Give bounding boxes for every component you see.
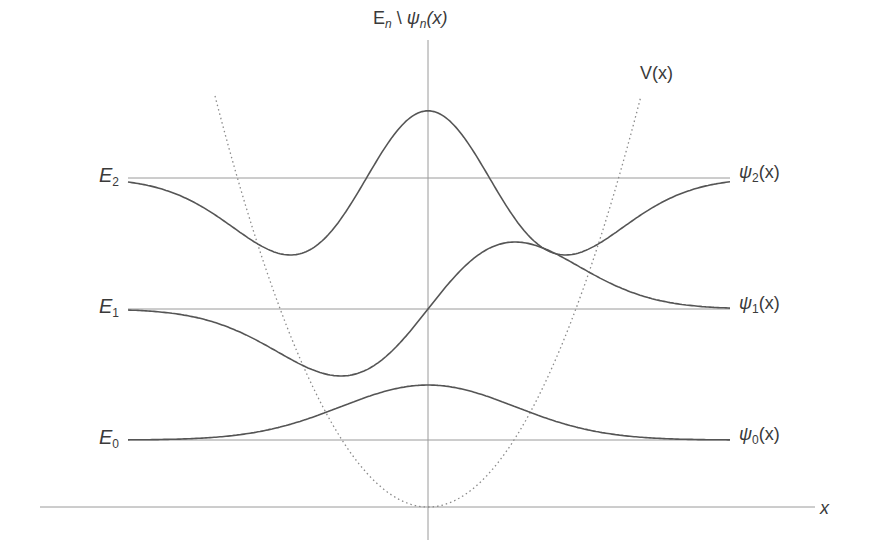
- wavefunctions: [128, 111, 730, 440]
- x-axis-label: x: [820, 499, 829, 517]
- wavefunction-curve-0: [128, 385, 730, 440]
- psi-label-0: ψ0(x): [739, 425, 780, 446]
- energy-label-e0: E0: [99, 427, 119, 450]
- plot-area: [0, 0, 869, 552]
- potential-label: V(x): [640, 64, 673, 82]
- wavefunction-curve-2: [128, 111, 730, 255]
- energy-label-e2: E2: [99, 165, 119, 188]
- qho-diagram: En \ ψn(x) V(x) x E2 E1 E0 ψ2(x) ψ1(x) ψ…: [0, 0, 869, 552]
- psi-label-2: ψ2(x): [739, 163, 780, 184]
- psi-label-1: ψ1(x): [739, 294, 780, 315]
- vertical-axis-title: En \ ψn(x): [373, 9, 448, 30]
- energy-label-e1: E1: [99, 296, 119, 319]
